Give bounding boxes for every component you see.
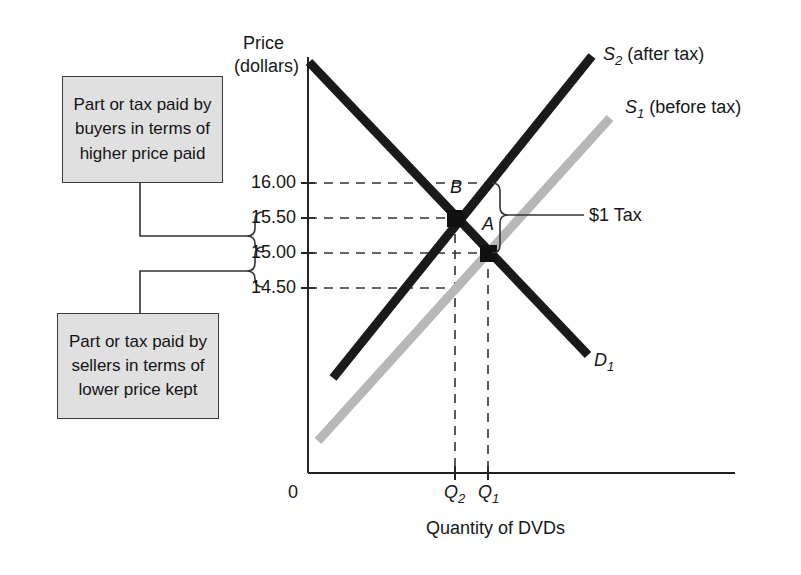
s1-note: (before tax)	[649, 97, 741, 117]
price-tick-14-50: 14.50	[208, 277, 296, 298]
point-marker-b	[447, 210, 464, 227]
point-label-a: A	[482, 214, 494, 235]
quantity-tick-q2: Q2	[444, 482, 465, 506]
price-tick-15-00: 15.00	[208, 242, 296, 263]
x-axis-title: Quantity of DVDs	[426, 518, 565, 539]
curve-label-s2: S2(after tax)	[603, 44, 704, 68]
tax-annotation: $1 Tax	[589, 205, 642, 226]
q2-symbol: Q	[444, 482, 458, 502]
price-tick-15-50: 15.50	[208, 207, 296, 228]
s2-symbol: S	[603, 44, 615, 64]
y-axis-title-line2: (dollars)	[234, 56, 299, 77]
s1-symbol: S	[625, 97, 637, 117]
curve-label-d1: D1	[594, 350, 614, 374]
callout-buyers: Part or tax paid by buyers in terms of h…	[62, 76, 223, 183]
d1-subscript: 1	[607, 359, 614, 374]
curve-label-s1: S1(before tax)	[625, 97, 741, 121]
q1-symbol: Q	[478, 482, 492, 502]
s1-subscript: 1	[637, 106, 644, 121]
price-guide-lines	[308, 183, 492, 288]
q2-subscript: 2	[458, 491, 465, 506]
callout-sellers: Part or tax paid by sellers in terms of …	[57, 313, 219, 419]
q1-subscript: 1	[492, 491, 499, 506]
s2-subscript: 2	[615, 53, 622, 68]
y-axis-title-line1: Price	[243, 33, 284, 54]
s2-note: (after tax)	[627, 44, 704, 64]
price-tick-16-00: 16.00	[208, 172, 296, 193]
quantity-tick-q1: Q1	[478, 482, 499, 506]
origin-label: 0	[288, 482, 298, 503]
figure-canvas: Part or tax paid by buyers in terms of h…	[0, 0, 801, 575]
supply-curve-s1	[318, 118, 610, 441]
d1-symbol: D	[594, 350, 607, 370]
point-label-b: B	[450, 177, 462, 198]
